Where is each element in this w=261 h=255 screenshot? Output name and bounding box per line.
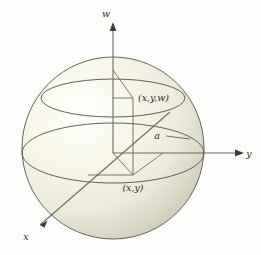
sphere-diagram: w y x (x,y,w) (x,y) a [0,0,261,255]
radius-label: a [154,130,160,141]
point-3d-label: (x,y,w) [138,92,169,103]
point-2d-label: (x,y) [122,182,143,193]
y-axis-label: y [245,148,252,159]
y-axis-arrowhead [235,150,244,157]
w-axis-label: w [102,8,110,19]
x-axis-label: x [23,231,29,242]
figure-container: w y x (x,y,w) (x,y) a [0,0,261,255]
w-axis-arrowhead [110,22,117,31]
